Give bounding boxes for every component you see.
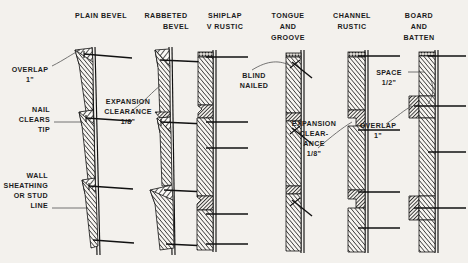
svg-text:1/8": 1/8"	[307, 150, 322, 158]
svg-text:1": 1"	[374, 132, 382, 140]
svg-text:CHANNEL: CHANNEL	[333, 12, 371, 20]
svg-text:EXPANSION: EXPANSION	[292, 120, 336, 128]
svg-text:BATTEN: BATTEN	[404, 34, 435, 42]
svg-text:BOARD: BOARD	[405, 12, 433, 20]
header-plain-bevel: PLAIN BEVEL	[75, 12, 127, 20]
svg-text:AND: AND	[280, 23, 297, 31]
svg-text:1/2": 1/2"	[382, 79, 397, 87]
tg-joint-2	[286, 186, 301, 194]
svg-text:CLEARANCE: CLEARANCE	[104, 108, 152, 116]
channel-board-3	[348, 208, 365, 252]
channel-board-1	[348, 52, 365, 110]
svg-text:OR STUD: OR STUD	[14, 192, 48, 200]
svg-text:LINE: LINE	[30, 202, 48, 210]
svg-text:CLEAR-: CLEAR-	[300, 130, 329, 138]
svg-text:RABBETED: RABBETED	[144, 12, 187, 20]
svg-text:TONGUE: TONGUE	[272, 12, 305, 20]
svg-text:V RUSTIC: V RUSTIC	[207, 23, 244, 31]
svg-text:CLEARS: CLEARS	[19, 116, 50, 124]
shiplap-board-2	[197, 118, 213, 196]
svg-text:WALL: WALL	[27, 172, 49, 180]
shiplap-board-1	[198, 52, 213, 105]
svg-text:BLIND: BLIND	[242, 72, 265, 80]
svg-text:SHIPLAP: SHIPLAP	[208, 12, 242, 20]
shiplap-v-joint-1	[198, 105, 213, 118]
batten-board-3	[419, 220, 435, 252]
svg-text:GROOVE: GROOVE	[271, 34, 305, 42]
siding-diagram: PLAIN BEVEL RABBETED BEVEL SHIPLAP V RUS…	[0, 0, 468, 263]
svg-text:1/8": 1/8"	[121, 118, 136, 126]
tg-board-1	[286, 53, 301, 113]
batten-strip-1	[409, 96, 435, 118]
svg-text:1": 1"	[26, 76, 34, 84]
shiplap-v-joint-2	[197, 196, 213, 210]
svg-text:BEVEL: BEVEL	[163, 23, 189, 31]
svg-text:AND: AND	[411, 23, 428, 31]
svg-text:NAILED: NAILED	[240, 82, 269, 90]
channel-board-2	[348, 126, 365, 190]
svg-text:TIP: TIP	[38, 126, 50, 134]
svg-text:OVERLAP: OVERLAP	[12, 66, 49, 74]
svg-text:SPACE: SPACE	[376, 69, 402, 77]
batten-board-2	[419, 118, 435, 196]
svg-text:ANCE: ANCE	[303, 140, 325, 148]
paper-background	[0, 0, 468, 263]
svg-text:SHEATHING: SHEATHING	[4, 182, 49, 190]
svg-text:EXPANSION: EXPANSION	[106, 98, 150, 106]
svg-text:PLAIN BEVEL: PLAIN BEVEL	[75, 12, 127, 20]
svg-text:OVERLAP: OVERLAP	[360, 122, 397, 130]
svg-text:NAIL: NAIL	[32, 106, 50, 114]
svg-text:RUSTIC: RUSTIC	[337, 23, 366, 31]
